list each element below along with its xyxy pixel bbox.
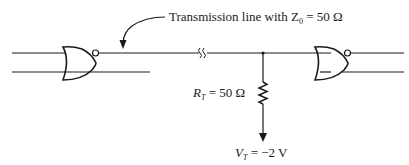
driver-inversion-bubble-icon — [93, 50, 99, 56]
supply-arrowhead-icon — [259, 133, 267, 142]
receiver-inversion-bubble-icon — [345, 50, 351, 56]
receiver-nor-gate-icon — [315, 47, 348, 80]
line-break-icon-2 — [203, 48, 206, 58]
annotation-label: Transmission line with Z0 = 50 Ω — [169, 9, 343, 26]
resistor-label: RT = 50 Ω — [192, 85, 245, 102]
circuit-diagram: Transmission line with Z0 = 50 Ω RT = 50… — [0, 0, 409, 165]
voltage-label: VT = −2 V — [235, 145, 288, 162]
annotation-arrow-curve — [123, 17, 165, 42]
annotation-arrowhead-icon — [120, 40, 127, 49]
termination-resistor-icon — [259, 82, 267, 104]
driver-nor-gate-icon — [63, 47, 96, 80]
